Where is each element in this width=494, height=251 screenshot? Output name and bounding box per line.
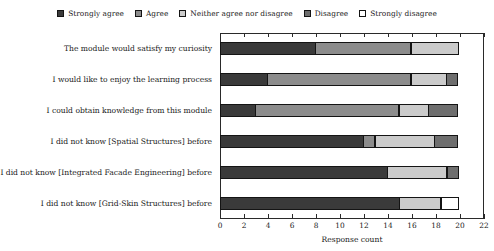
legend-swatch-icon <box>135 10 142 17</box>
bar-segment <box>428 104 458 117</box>
x-tick-mark <box>316 214 317 219</box>
x-tick-mark <box>292 214 293 219</box>
chart-legend: Strongly agreeAgreeNeither agree nor dis… <box>0 9 494 18</box>
x-axis-title: Response count <box>220 235 484 244</box>
bar-segment <box>399 197 441 210</box>
bar-segment <box>220 135 364 148</box>
bar-segment <box>399 104 429 117</box>
legend-item-label: Neither agree nor disagree <box>190 9 292 18</box>
x-tick-label: 20 <box>455 221 464 230</box>
bar-segment <box>220 42 316 55</box>
bar-segment <box>220 197 400 210</box>
category-label: I did not know [Grid-Skin Structures] be… <box>0 199 216 208</box>
stacked-bar-group <box>220 33 484 219</box>
x-tick-mark <box>388 214 389 219</box>
x-tick-label: 6 <box>290 221 295 230</box>
x-tick-label: 10 <box>335 221 344 230</box>
category-label: The module would satisfy my curiosity <box>0 44 216 53</box>
x-tick-label: 4 <box>266 221 271 230</box>
bar-segment <box>220 104 256 117</box>
bar-row <box>220 104 458 117</box>
legend-swatch-icon <box>57 10 64 17</box>
legend-item-label: Strongly agree <box>68 9 124 18</box>
legend-swatch-icon <box>179 10 186 17</box>
bar-segment <box>447 166 459 179</box>
legend-item: Neither agree nor disagree <box>179 9 292 18</box>
x-tick-mark-top <box>268 33 269 37</box>
x-tick-mark-top <box>364 33 365 37</box>
bar-row <box>220 166 459 179</box>
x-tick-label: 0 <box>218 221 223 230</box>
bar-segment <box>267 73 411 86</box>
x-tick-label: 14 <box>383 221 392 230</box>
x-tick-mark-top <box>412 33 413 37</box>
bar-segment <box>315 42 411 55</box>
x-tick-mark <box>436 214 437 219</box>
x-tick-mark <box>484 214 485 219</box>
x-tick-mark <box>412 214 413 219</box>
bar-row <box>220 73 458 86</box>
legend-swatch-icon <box>304 10 311 17</box>
category-axis-labels: The module would satisfy my curiosityI w… <box>0 33 216 219</box>
bar-segment <box>434 135 458 148</box>
x-tick-mark <box>340 214 341 219</box>
x-tick-mark-top <box>436 33 437 37</box>
x-tick-mark <box>244 214 245 219</box>
bar-segment <box>411 42 459 55</box>
legend-item: Disagree <box>304 9 349 18</box>
x-tick-mark-top <box>340 33 341 37</box>
x-tick-label: 12 <box>359 221 368 230</box>
x-tick-label: 18 <box>431 221 440 230</box>
bar-segment <box>446 73 458 86</box>
bar-row <box>220 135 458 148</box>
x-tick-mark-top <box>460 33 461 37</box>
x-tick-mark-top <box>484 33 485 37</box>
x-tick-mark <box>364 214 365 219</box>
x-tick-mark <box>220 214 221 219</box>
x-tick-label: 22 <box>479 221 488 230</box>
bar-segment <box>441 197 459 210</box>
bar-segment <box>363 135 375 148</box>
legend-item-label: Agree <box>146 9 168 18</box>
legend-item: Agree <box>135 9 168 18</box>
x-tick-label: 16 <box>407 221 416 230</box>
legend-item: Strongly agree <box>57 9 124 18</box>
bar-segment <box>255 104 399 117</box>
x-tick-mark-top <box>220 33 221 37</box>
bar-segment <box>387 166 447 179</box>
category-label: I did not know [Integrated Facade Engine… <box>0 168 216 177</box>
x-tick-mark-top <box>388 33 389 37</box>
bar-segment <box>220 73 268 86</box>
x-tick-mark <box>268 214 269 219</box>
bar-segment <box>220 166 388 179</box>
bar-row <box>220 42 459 55</box>
legend-item-label: Strongly disagree <box>370 9 437 18</box>
legend-swatch-icon <box>359 10 366 17</box>
category-label: I did not know [Spatial Structures] befo… <box>0 137 216 146</box>
x-tick-mark-top <box>292 33 293 37</box>
x-tick-mark-top <box>244 33 245 37</box>
x-tick-mark <box>460 214 461 219</box>
category-label: I would like to enjoy the learning proce… <box>0 75 216 84</box>
bar-segment <box>411 73 447 86</box>
x-tick-label: 2 <box>242 221 247 230</box>
bar-segment <box>375 135 435 148</box>
legend-item: Strongly disagree <box>359 9 437 18</box>
category-label: I could obtain knowledge from this modul… <box>0 106 216 115</box>
legend-item-label: Disagree <box>315 9 349 18</box>
bar-row <box>220 197 459 210</box>
x-tick-mark-top <box>316 33 317 37</box>
x-tick-label: 8 <box>314 221 319 230</box>
